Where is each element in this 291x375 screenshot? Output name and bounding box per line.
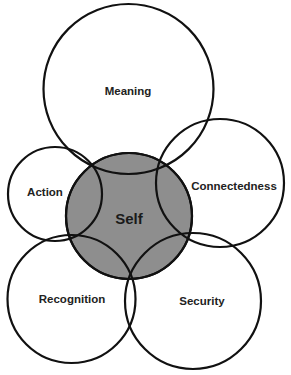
- security-label: Security: [179, 295, 225, 307]
- recognition-label: Recognition: [39, 293, 105, 305]
- meaning-label: Meaning: [105, 85, 152, 97]
- self-needs-diagram: Meaning Action Connectedness Self Recogn…: [0, 0, 291, 375]
- self-label: Self: [115, 210, 144, 227]
- action-label: Action: [27, 186, 63, 198]
- connectedness-label: Connectedness: [191, 180, 277, 192]
